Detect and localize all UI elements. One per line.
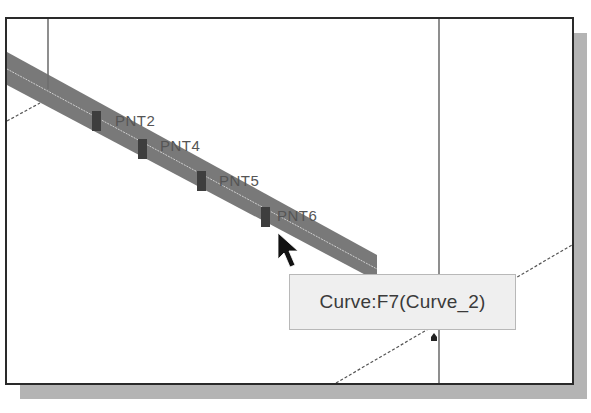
viewport-shadow-right: [572, 33, 587, 399]
point-marker-pnt6[interactable]: [261, 207, 270, 227]
point-marker-pnt2[interactable]: [92, 111, 101, 131]
point-label-pnt5: PNT5: [219, 172, 259, 189]
selection-tooltip: Curve:F7(Curve_2): [289, 274, 516, 330]
point-label-pnt2: PNT2: [115, 112, 155, 129]
point-marker-pnt4[interactable]: [138, 139, 147, 159]
curve-centerline: [7, 69, 377, 269]
graphics-viewport[interactable]: PNT2 PNT4 PNT5 PNT6 Curve:F7(Curve_2): [5, 17, 574, 385]
tooltip-text: Curve:F7(Curve_2): [319, 291, 485, 313]
point-label-pnt6: PNT6: [277, 207, 317, 224]
selected-curve-highlight[interactable]: [7, 52, 377, 281]
viewport-shadow-bottom: [20, 383, 587, 399]
anchor-marker-icon: [431, 333, 437, 341]
dashed-construction-line-left: [7, 103, 40, 121]
point-label-pnt4: PNT4: [160, 137, 200, 154]
point-marker-pnt5[interactable]: [197, 171, 206, 191]
mouse-pointer-icon: [278, 233, 298, 267]
